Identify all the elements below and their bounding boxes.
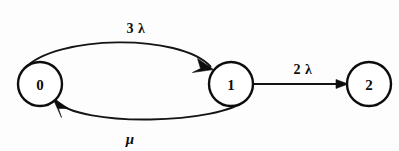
edge-1-to-2: 2 λ: [253, 62, 348, 89]
node-0[interactable]: 0: [18, 62, 62, 106]
state-transition-diagram: 3 λ μ 2 λ 0 1 2: [0, 0, 399, 151]
node-2-label: 2: [365, 77, 373, 93]
edge-1-to-2-label: 2 λ: [294, 62, 313, 77]
edge-1-to-0: μ: [53, 98, 247, 148]
edge-1-to-0-label: μ: [125, 131, 134, 147]
edge-0-to-1-label: 3 λ: [127, 21, 146, 36]
node-2[interactable]: 2: [347, 62, 391, 106]
node-0-label: 0: [36, 77, 44, 93]
node-1-label: 1: [227, 77, 235, 93]
diagram-canvas: 3 λ μ 2 λ 0 1 2: [0, 0, 399, 151]
node-1[interactable]: 1: [209, 62, 253, 106]
